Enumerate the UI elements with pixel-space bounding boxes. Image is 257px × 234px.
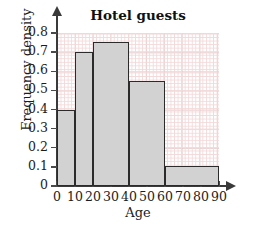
histogram-bar <box>129 81 165 186</box>
histogram-bar <box>165 166 219 186</box>
x-axis-label: Age <box>57 205 219 220</box>
histogram-bar <box>75 52 93 186</box>
y-axis-label: Frequency density <box>19 0 34 150</box>
y-axis-arrow-icon <box>52 6 62 16</box>
histogram-bar <box>93 42 129 186</box>
y-tick <box>51 71 57 72</box>
y-tick <box>51 51 57 52</box>
histogram-figure: Hotel guests 0102030405060708090 00.10.2… <box>0 0 257 234</box>
y-tick-label: 0.1 <box>18 160 48 173</box>
y-tick-label: 0 <box>18 179 48 192</box>
x-tick-label: 90 <box>206 189 232 204</box>
chart-title: Hotel guests <box>57 7 219 23</box>
y-tick <box>51 32 57 33</box>
histogram-bar <box>57 110 75 187</box>
y-tick <box>51 90 57 91</box>
